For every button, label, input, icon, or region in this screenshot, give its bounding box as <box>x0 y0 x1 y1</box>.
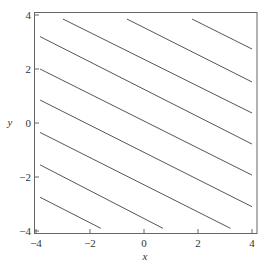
x-axis-label: x <box>142 250 148 262</box>
x-tick-label: 2 <box>195 237 201 249</box>
x-axis-ticks: −4−2024 <box>30 229 255 249</box>
y-tick-label: 0 <box>26 117 32 129</box>
series-line-2 <box>63 19 252 113</box>
plot-frame <box>35 13 258 234</box>
x-tick-label: 4 <box>249 237 255 249</box>
series-line-1 <box>127 19 252 82</box>
series-line-0 <box>192 19 252 49</box>
series-line-4 <box>40 69 252 175</box>
series-line-5 <box>40 100 252 207</box>
y-axis-label: y <box>7 116 13 128</box>
x-tick-label: 0 <box>141 237 147 249</box>
x-tick-label: −2 <box>84 237 96 249</box>
line-family-chart: −4−2024 −4−2024 x y <box>0 0 263 267</box>
y-tick-label: −4 <box>19 225 31 237</box>
y-tick-label: 2 <box>26 63 32 75</box>
x-tick-label: −4 <box>30 237 42 249</box>
series-line-8 <box>40 197 101 228</box>
y-tick-label: −2 <box>19 171 31 183</box>
plot-lines <box>40 19 252 228</box>
y-axis-ticks: −4−2024 <box>19 9 39 237</box>
y-tick-label: 4 <box>26 9 32 21</box>
series-line-7 <box>40 165 163 228</box>
series-line-3 <box>40 37 252 144</box>
